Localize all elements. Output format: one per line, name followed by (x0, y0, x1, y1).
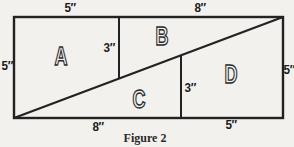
dim-left-side-label: 5″ (2, 60, 13, 72)
region-c-label: C (132, 88, 145, 111)
region-d-label: D (224, 63, 237, 86)
dim-top-right-label: 8″ (194, 2, 205, 14)
dim-bottom-right-label: 5″ (225, 119, 236, 131)
dim-bottom-left-label: 8″ (92, 121, 103, 133)
dim-inner-upper-label: 3″ (104, 42, 115, 54)
dim-inner-lower-label: 3″ (185, 82, 196, 94)
dim-right-side-label: 5″ (284, 64, 294, 76)
geometry-figure: 5″ 8″ 5″ 5″ 3″ 3″ 8″ 5″ A B C D Figure 2 (0, 0, 294, 147)
region-b-label: B (155, 25, 168, 48)
figure-caption: Figure 2 (124, 131, 167, 146)
dim-top-left-label: 5″ (64, 2, 75, 14)
region-a-label: A (54, 45, 67, 68)
diagram-canvas (0, 0, 294, 147)
